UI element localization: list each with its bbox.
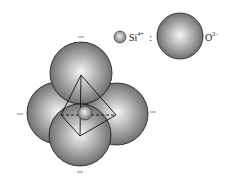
silicate-tetrahedron-diagram — [0, 0, 235, 181]
legend-separator: : — [149, 32, 152, 43]
legend-si-label: Si4+ : — [129, 31, 152, 43]
silicon-sphere — [78, 106, 92, 120]
legend-o-sphere-icon — [157, 13, 203, 59]
oxygen-spheres — [27, 42, 148, 166]
legend-o-charge: 2− — [212, 31, 218, 37]
legend-si-sphere-icon — [114, 31, 126, 43]
legend-o-label: O2− — [205, 31, 219, 43]
legend-si-charge: 4+ — [137, 31, 143, 37]
